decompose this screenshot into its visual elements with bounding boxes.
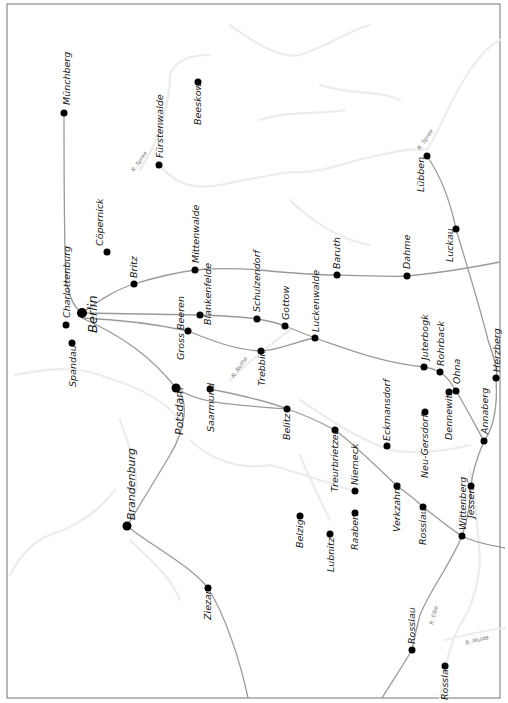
- town-label: Belitz: [281, 413, 292, 440]
- river-course: [230, 25, 370, 56]
- town-dot-icon: [63, 322, 70, 329]
- town-marker: Gottow: [280, 286, 291, 330]
- town-marker: Eckmansdorf: [381, 377, 392, 449]
- town-dot-icon: [192, 267, 199, 274]
- town-marker: Belzig: [294, 513, 305, 549]
- river-label: R. Mulde: [465, 634, 490, 646]
- town-marker: Ohna: [451, 358, 462, 394]
- town-marker: Dahme: [401, 235, 412, 280]
- river-course: [190, 440, 350, 490]
- town-label: Gottow: [280, 286, 291, 320]
- town-dot-icon: [282, 323, 289, 330]
- town-label: Lübben: [415, 157, 426, 192]
- town-dot-icon: [312, 335, 319, 342]
- town-marker: Raaben: [349, 510, 360, 551]
- town-label: Raaben: [349, 514, 360, 550]
- town-marker: Ziezar: [202, 585, 213, 622]
- town-marker: Juterbogk: [419, 314, 430, 371]
- town-dot-icon: [437, 369, 444, 376]
- town-dot-icon: [156, 162, 163, 169]
- town-marker: Fürstenwalde: [154, 94, 165, 168]
- town-dot-icon: [421, 364, 428, 371]
- river-label: R. Elbe: [428, 605, 439, 626]
- town-label: Spandau: [67, 345, 78, 387]
- town-dot-icon: [254, 316, 261, 323]
- town-label: Luckau: [444, 228, 455, 262]
- town-label: Niemeck: [349, 443, 360, 485]
- town-marker: Trebbin: [256, 348, 267, 387]
- town-marker: Schulzendorf: [251, 248, 262, 322]
- town-marker: Rohrback: [435, 321, 446, 376]
- town-label: Saarmund: [205, 382, 216, 432]
- town-label: Trebbin: [256, 350, 267, 386]
- town-marker: Münchberg: [61, 52, 73, 117]
- town-label: Herzberg: [491, 328, 502, 372]
- river-course: [160, 149, 427, 187]
- town-label: Ziezar: [202, 589, 213, 621]
- town-label: Eckmansdorf: [381, 377, 392, 441]
- town-marker: Wittenberg: [457, 477, 468, 540]
- town-label: Wittenberg: [457, 477, 468, 530]
- town-label: Blankenfelde: [202, 263, 213, 325]
- town-dot-icon: [334, 272, 341, 279]
- river-course: [290, 200, 370, 245]
- town-label: Verkzahna: [391, 482, 402, 532]
- town-label: Luckenwalde: [310, 270, 321, 332]
- river-course: [427, 40, 500, 150]
- town-dot-icon: [404, 273, 411, 280]
- town-label: Schulzendorf: [251, 248, 262, 312]
- town-marker: Lubnitz: [325, 531, 336, 573]
- town-label: Juterbogk: [419, 314, 430, 362]
- town-label: Ohna: [451, 358, 462, 384]
- town-label: Rosslau: [406, 607, 417, 644]
- town-dot-icon: [493, 375, 500, 382]
- town-label: Lubnitz: [325, 536, 336, 572]
- river-course: [15, 369, 180, 420]
- town-marker: Rosslau: [439, 663, 450, 701]
- town-dot-icon: [327, 531, 334, 538]
- towns-layer: MünchbergBeeskowFürstenwaldeCöpernickCha…: [61, 52, 503, 700]
- town-label: Britz: [128, 255, 139, 278]
- town-label: Brandenburg: [125, 448, 138, 520]
- town-label: Gross Beeren: [175, 296, 186, 360]
- town-label: Rosslau: [439, 663, 450, 700]
- town-marker: Beeskow: [192, 79, 203, 126]
- town-dot-icon: [409, 647, 416, 654]
- town-marker: Treurbrietzen: [329, 427, 340, 493]
- town-marker: Rosslau: [406, 607, 417, 653]
- town-label: Beeskow: [192, 83, 203, 125]
- river-label: R. Nuthe: [230, 355, 249, 379]
- town-marker: Brandenburg: [123, 448, 139, 530]
- river-course: [300, 455, 330, 520]
- town-marker: Baruth: [331, 237, 342, 279]
- town-marker: Luckenwalde: [310, 270, 321, 342]
- town-marker: Neu-Gersdorf: [419, 409, 430, 479]
- town-dot-icon: [481, 438, 488, 445]
- town-dot-icon: [384, 443, 391, 450]
- town-label: Dennewitz: [443, 389, 454, 440]
- town-dot-icon: [131, 281, 138, 288]
- town-dot-icon: [104, 249, 111, 256]
- town-dot-icon: [284, 406, 291, 413]
- town-marker: Spandau: [67, 340, 78, 388]
- town-label: Münchberg: [61, 52, 72, 105]
- town-dot-icon: [352, 488, 359, 495]
- town-label: Cöpernick: [94, 198, 105, 246]
- town-label: Baruth: [331, 237, 342, 269]
- town-label: Rosslau: [417, 508, 428, 545]
- town-label: Fürstenwalde: [154, 94, 165, 158]
- town-dot-icon: [61, 110, 68, 117]
- river-course: [130, 540, 180, 600]
- town-label: Belzig: [294, 519, 305, 548]
- railway-line: [176, 388, 287, 409]
- town-marker: Berlin: [77, 295, 100, 333]
- town-marker: Gross Beeren: [175, 296, 192, 360]
- railways-layer: [64, 113, 505, 698]
- town-marker: Dennewitz: [443, 389, 454, 441]
- river-course: [260, 110, 345, 120]
- town-marker: Mittenwalde: [190, 205, 201, 274]
- town-dot-icon: [123, 522, 132, 531]
- town-label: Treurbrietzen: [329, 428, 340, 492]
- town-marker: Verkzahna: [391, 482, 402, 532]
- railway-line: [127, 526, 248, 698]
